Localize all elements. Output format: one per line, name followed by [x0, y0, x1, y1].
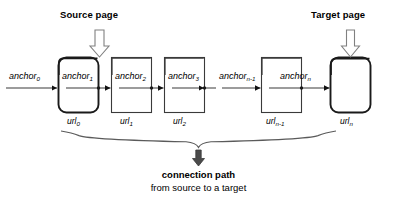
anchor-subscript: n	[308, 75, 311, 82]
url-subscript: 2	[182, 120, 185, 127]
anchor-subscript: n-1	[247, 75, 256, 82]
node-rect	[262, 58, 302, 113]
node-box-url-n-1[interactable]	[262, 58, 302, 113]
url-subscript: n-1	[275, 120, 284, 127]
node-box-url2[interactable]	[165, 58, 205, 113]
connection-path-caption-subtitle: from source to a target	[0, 183, 397, 193]
anchor-label-n: anchorn	[280, 72, 311, 81]
anchor-text: anchor	[62, 71, 90, 81]
url-label-n-1: urln-1	[266, 117, 284, 126]
anchor-label-1: anchor1	[62, 72, 93, 81]
anchor-label-incoming-0: anchor0	[9, 72, 40, 81]
source-page-block-arrow	[90, 30, 109, 57]
node-box-url-n[interactable]	[331, 58, 371, 113]
url-subscript: 1	[129, 120, 132, 127]
target-page-title: Target page	[311, 10, 365, 20]
anchor-text: anchor	[219, 71, 247, 81]
url-subscript: n	[349, 120, 352, 127]
anchor-text: anchor	[168, 71, 196, 81]
anchor-subscript: 0	[37, 75, 40, 82]
url-label-0: url0	[67, 117, 80, 126]
source-page-title: Source page	[60, 10, 118, 20]
node-rect	[331, 58, 371, 113]
anchor-subscript: 2	[143, 75, 146, 82]
anchor-label-2: anchor2	[115, 72, 146, 81]
url-subscript: 0	[76, 120, 79, 127]
node-rect	[165, 58, 205, 113]
url-label-1: url1	[120, 117, 133, 126]
connection-path-arrow	[193, 150, 205, 166]
anchor-text: anchor	[280, 71, 308, 81]
connection-path-brace	[61, 131, 336, 148]
anchor-subscript: 1	[90, 75, 93, 82]
node-box-url1[interactable]	[112, 58, 152, 113]
node-rect	[112, 58, 152, 113]
anchor-subscript: 3	[196, 75, 199, 82]
anchor-text: anchor	[9, 71, 37, 81]
connection-path-caption-title: connection path	[0, 170, 397, 180]
diagram-canvas: Source page Target page anchor0 anchor1 …	[0, 0, 397, 205]
anchor-label-3: anchor3	[168, 72, 199, 81]
target-page-block-arrow	[342, 30, 360, 57]
anchor-text: anchor	[115, 71, 143, 81]
node-rect	[59, 58, 99, 113]
url-label-2: url2	[173, 117, 186, 126]
node-box-url0[interactable]	[59, 58, 99, 113]
url-label-n: urln	[340, 117, 353, 126]
anchor-label-incoming-n-1: anchorn-1	[219, 72, 255, 81]
